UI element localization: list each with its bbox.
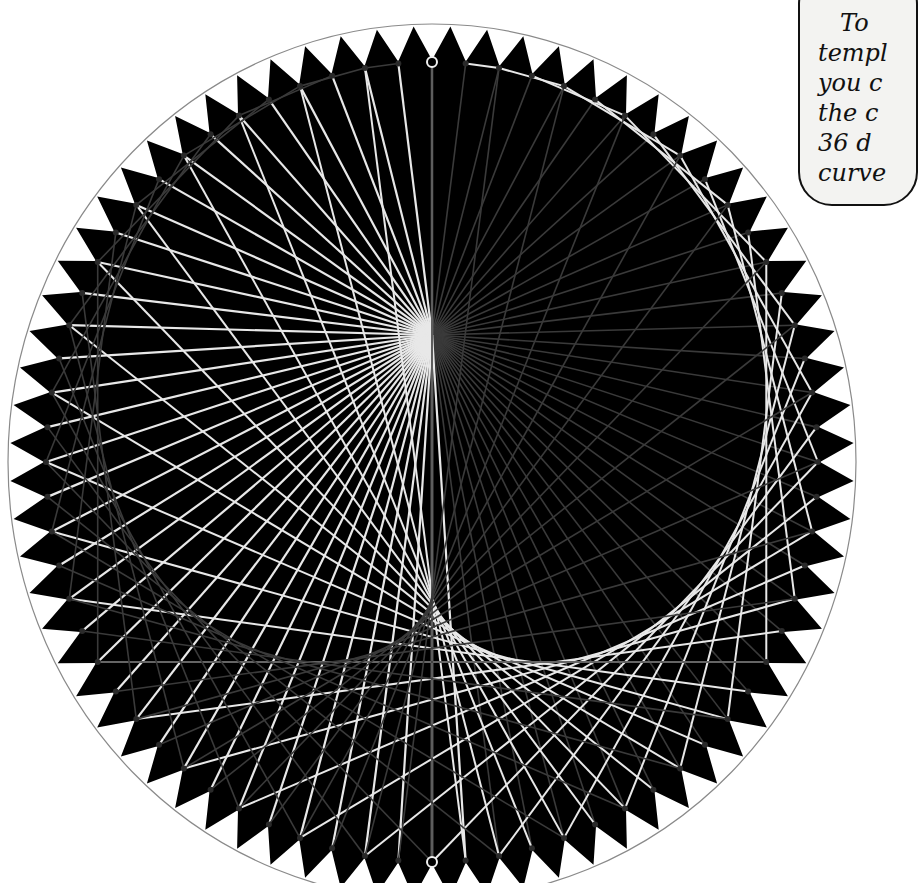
caption-box: To templ you c the c 36 d curve	[798, 0, 918, 206]
caption-line: To	[818, 8, 916, 38]
caption-line: you c	[818, 68, 916, 98]
caption-line: the c	[818, 98, 916, 128]
caption-line: templ	[818, 38, 916, 68]
caption-line: 36 d	[818, 128, 916, 158]
caption-line: curve	[818, 158, 916, 188]
